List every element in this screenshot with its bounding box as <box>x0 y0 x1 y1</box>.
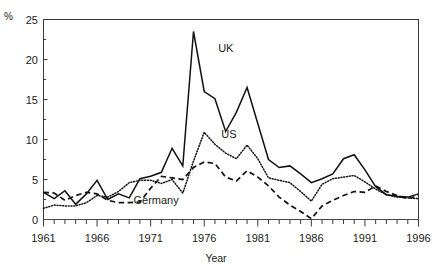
x-tick-label: 1991 <box>353 232 377 244</box>
y-tick-labels: 0510152025 <box>26 14 38 226</box>
series-lines <box>44 32 419 219</box>
x-tick-label: 1976 <box>192 232 216 244</box>
x-tick-label: 1986 <box>299 232 323 244</box>
x-tick-label: 1996 <box>406 232 430 244</box>
x-tick-label: 1966 <box>85 232 109 244</box>
series-annotation-uk: UK <box>218 42 234 54</box>
y-tick-label: 5 <box>32 174 38 186</box>
series-annotation-us: US <box>221 128 236 140</box>
y-tick-label: 10 <box>26 134 38 146</box>
y-tick-label: 15 <box>26 94 38 106</box>
inflation-line-chart: % 0510152025 196119661971197619811986199… <box>0 0 438 278</box>
series-annotation-germany: Germany <box>134 194 180 206</box>
x-axis-title: Year <box>205 252 227 264</box>
chart-canvas: % 0510152025 196119661971197619811986199… <box>0 0 438 278</box>
y-tick-label: 0 <box>32 214 38 226</box>
series-annotations: UKUSGermany <box>134 42 237 207</box>
x-tick-label: 1981 <box>246 232 270 244</box>
y-tick-label: 20 <box>26 54 38 66</box>
y-axis-unit-label: % <box>4 11 13 22</box>
series-line-germany <box>44 162 419 219</box>
x-tick-label: 1961 <box>31 232 55 244</box>
y-tick-label: 25 <box>26 14 38 26</box>
y-tick-marks <box>44 20 48 220</box>
x-tick-marks <box>44 220 419 227</box>
x-tick-label: 1971 <box>138 232 162 244</box>
x-tick-labels: 19611966197119761981198619911996 <box>31 232 430 244</box>
series-line-us <box>44 132 419 208</box>
